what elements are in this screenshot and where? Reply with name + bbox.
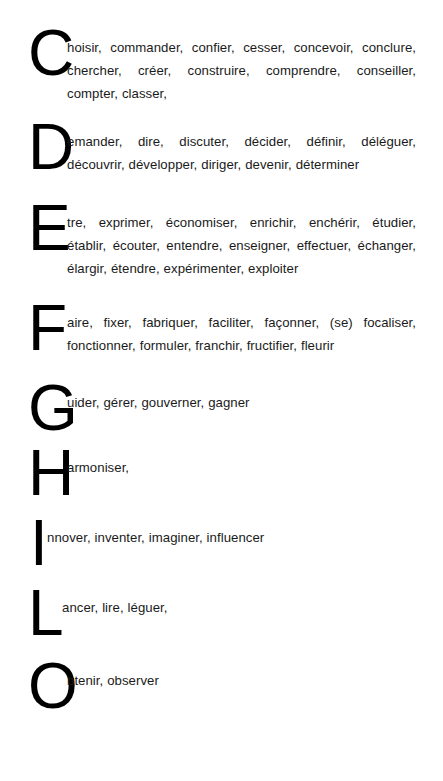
verb-list-l: ancer, lire, léguer, (62, 596, 416, 619)
verb-list-e: tre, exprimer, économiser, enrichir, enc… (67, 211, 416, 280)
verb-list-page: C hoisir, commander, confier, cesser, co… (0, 0, 443, 781)
dropcap-letter-d: D (28, 122, 72, 172)
verb-list-d: emander, dire, discuter, décider, défini… (67, 130, 416, 176)
dropcap-letter-f: F (28, 303, 72, 353)
dropcap-letter-e: E (28, 203, 72, 253)
verb-list-h: armoniser, (67, 456, 416, 479)
verb-list-f: aire, fixer, fabriquer, faciliter, façon… (67, 311, 416, 357)
verb-list-i: nnover, inventer, imaginer, influencer (47, 526, 416, 549)
dropcap-letter-c: C (28, 28, 72, 78)
verb-list-o: btenir, observer (67, 669, 416, 692)
verb-list-c: hoisir, commander, confier, cesser, conc… (67, 36, 416, 105)
dropcap-letter-g: G (28, 383, 72, 433)
verb-list-g: uider, gérer, gouverner, gagner (67, 391, 416, 414)
dropcap-letter-o: O (28, 661, 72, 711)
dropcap-letter-h: H (28, 448, 72, 498)
